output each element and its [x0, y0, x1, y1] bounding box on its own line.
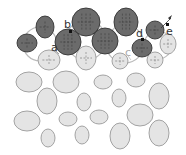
label-c: c [125, 46, 131, 59]
dark-cell-6 [132, 39, 152, 57]
dark-cell-4 [92, 28, 118, 54]
light-cell-15 [149, 120, 169, 146]
light-cell-8 [14, 111, 40, 131]
light-cell-7 [149, 83, 169, 109]
light-cell-10 [90, 110, 108, 124]
dark-cell-5 [114, 8, 138, 36]
dark-cell-1 [36, 16, 54, 38]
label-e: e [166, 25, 173, 38]
light-cell-3 [127, 73, 145, 87]
light-cell-13 [75, 126, 89, 144]
cell-diagram: a b c d e [0, 0, 186, 155]
arrow-e-head [168, 15, 172, 20]
light-cell-11 [127, 104, 153, 126]
light-cell-2 [94, 75, 112, 89]
light-cell-9 [59, 112, 77, 126]
dark-cell-7 [146, 21, 164, 39]
dark-cell-0 [17, 34, 37, 52]
light-cell-14 [110, 123, 130, 149]
light-cell-12 [41, 129, 55, 147]
light-cell-4 [37, 88, 57, 114]
light-cell-5 [77, 93, 91, 111]
light-cell-6 [112, 89, 126, 107]
label-a: a [51, 41, 58, 54]
light-cell-1 [53, 71, 79, 93]
light-cells-layer [14, 71, 169, 149]
label-d: d [136, 27, 143, 40]
label-b: b [64, 18, 71, 31]
light-cell-0 [16, 72, 42, 92]
